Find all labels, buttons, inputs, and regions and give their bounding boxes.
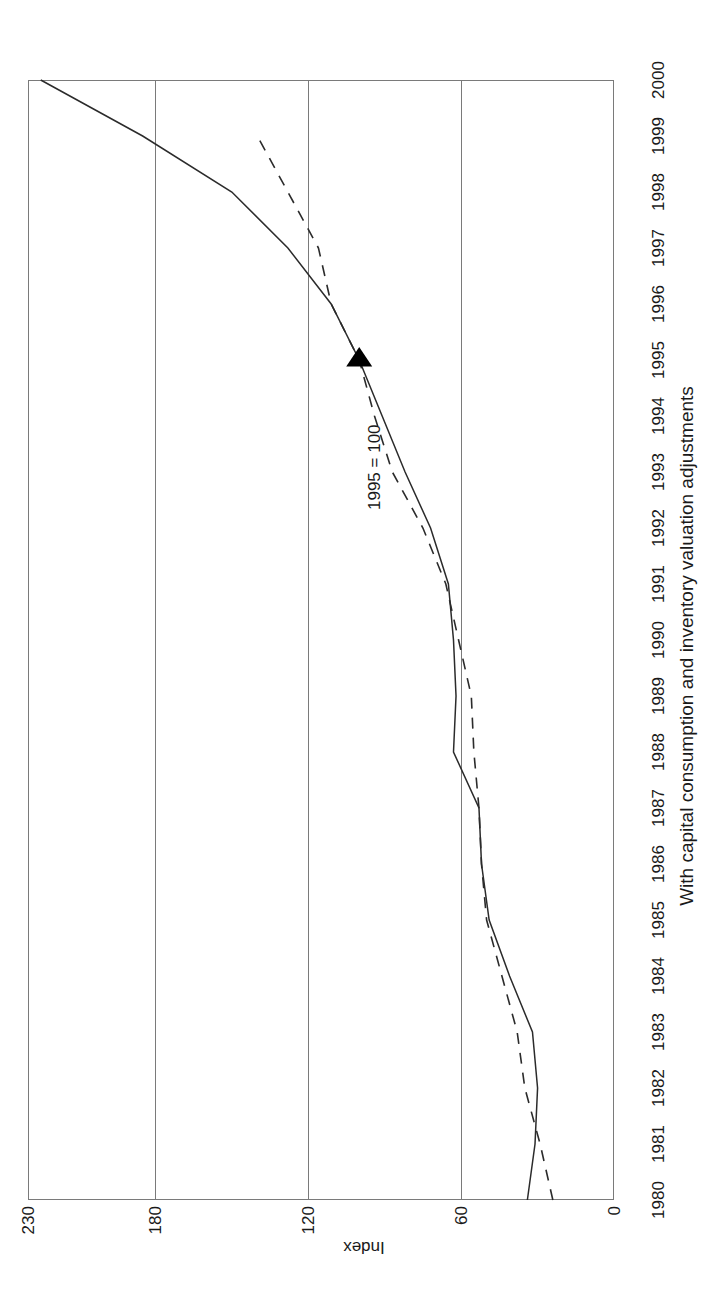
x-tick-label-1995: 1995 (650, 341, 667, 379)
y-tick-label-60: 60 (453, 1206, 470, 1276)
y-tick-label-0: 0 (606, 1206, 623, 1276)
triangle-marker-icon (346, 347, 372, 367)
x-tick-label-1994: 1994 (650, 397, 667, 435)
x-tick-label-1980: 1980 (650, 1181, 667, 1219)
y-tick-label-180: 180 (147, 1206, 164, 1276)
x-tick-label-1984: 1984 (650, 957, 667, 995)
y-tick-label-230: 230 (20, 1206, 37, 1276)
x-tick-label-1990: 1990 (650, 621, 667, 659)
x-tick-label-1993: 1993 (650, 453, 667, 491)
x-tick-label-1986: 1986 (650, 845, 667, 883)
x-tick-label-1999: 1999 (650, 117, 667, 155)
x-tick-label-1985: 1985 (650, 901, 667, 939)
rotated-figure-wrapper: Index 060120180230 198019811982198319841… (0, 0, 728, 1292)
x-tick-label-1996: 1996 (650, 285, 667, 323)
series-solid-line (41, 80, 538, 1200)
series-dashed-line (257, 136, 553, 1200)
x-tick-label-1998: 1998 (650, 173, 667, 211)
x-tick-label-1981: 1981 (650, 1125, 667, 1163)
chart-subtitle: With capital consumption and inventory v… (676, 0, 698, 1292)
chart-figure: Index 060120180230 198019811982198319841… (0, 0, 728, 1292)
annotation-1995-equals-100: 1995 = 100 (365, 424, 385, 510)
x-tick-label-1987: 1987 (650, 789, 667, 827)
data-series-svg (28, 80, 614, 1200)
x-tick-label-2000: 2000 (650, 61, 667, 99)
x-tick-label-1983: 1983 (650, 1013, 667, 1051)
plot-area: 060120180230 198019811982198319841985198… (28, 80, 614, 1200)
y-tick-label-120: 120 (300, 1206, 317, 1276)
x-tick-label-1992: 1992 (650, 509, 667, 547)
x-tick-label-1997: 1997 (650, 229, 667, 267)
y-axis-title: Index (343, 1237, 385, 1257)
x-tick-label-1991: 1991 (650, 565, 667, 603)
x-tick-label-1989: 1989 (650, 677, 667, 715)
x-tick-label-1982: 1982 (650, 1069, 667, 1107)
x-tick-label-1988: 1988 (650, 733, 667, 771)
